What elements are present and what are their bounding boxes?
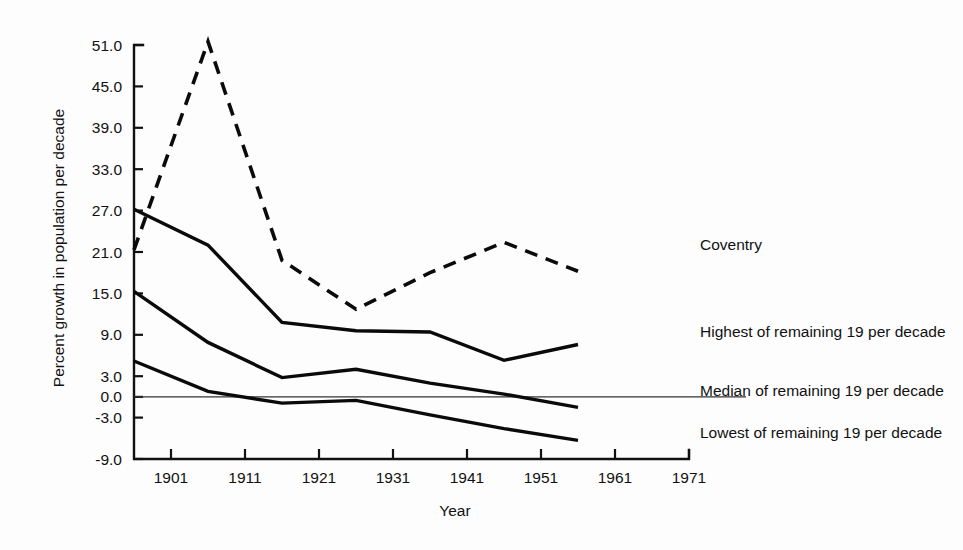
x-tick-label: 1901 [154,469,188,486]
y-tick-label: 0.0 [100,388,122,405]
y-tick-label: -3.0 [95,409,122,426]
x-axis-title: Year [439,502,470,519]
series-label-3: Lowest of remaining 19 per decade [700,424,942,441]
x-tick-label: 1921 [302,469,336,486]
y-tick-label: 45.0 [92,78,123,95]
y-tick-label: 51.0 [92,37,123,54]
x-tick-label: 1941 [450,469,484,486]
x-tick-label: 1931 [376,469,410,486]
series-label-2: Median of remaining 19 per decade [700,382,944,399]
series-label-0: Coventry [700,236,762,253]
population-growth-line-chart: 51.045.039.033.027.021.015.09.03.00.0-3.… [0,0,963,550]
x-tick-label: 1971 [672,469,706,486]
y-tick-label: 15.0 [92,285,123,302]
y-tick-label: 9.0 [100,326,122,343]
x-tick-label: 1911 [228,469,261,486]
x-tick-label: 1951 [524,469,558,486]
chart-background [0,0,963,550]
y-tick-label: 33.0 [92,161,123,178]
y-tick-label: 27.0 [92,202,123,219]
chart-figure: 51.045.039.033.027.021.015.09.03.00.0-3.… [0,0,963,550]
y-tick-label: 39.0 [92,119,123,136]
y-tick-label: 21.0 [92,244,123,261]
y-tick-label: 3.0 [100,368,122,385]
y-axis-title: Percent growth in population per decade [50,109,67,387]
x-tick-label: 1961 [598,469,632,486]
y-tick-label: -9.0 [95,451,122,468]
series-label-1: Highest of remaining 19 per decade [700,323,946,340]
